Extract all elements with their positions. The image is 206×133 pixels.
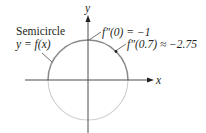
function-label: y = f(x) [15,38,51,51]
annotation-leader-line [89,32,101,40]
annotation-leader-line [117,44,126,50]
semicircle-leader-line [42,53,52,62]
y-axis-label: y [84,2,91,15]
x-axis-label: x [155,74,162,86]
second-derivative-at-0-7: f″(0.7) ≈ −2.75 [127,38,197,51]
y-axis-arrow-icon [86,15,91,22]
semicircle-diagram: x y Semicircle y = f(x) f″(0) = −1 f″(0.… [0,0,206,133]
semicircle-label: Semicircle [16,25,65,37]
point-marker [115,50,118,53]
x-axis-arrow-icon [147,78,154,83]
